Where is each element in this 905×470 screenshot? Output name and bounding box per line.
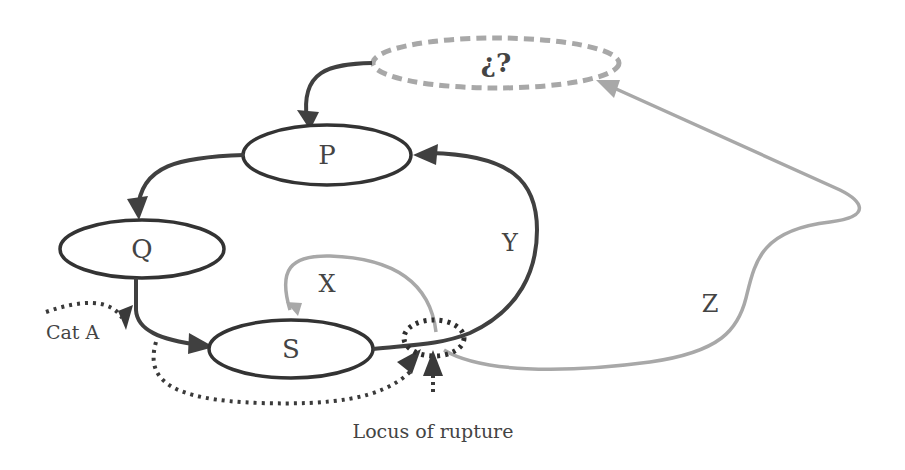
node-unknown: ¿? — [373, 38, 619, 88]
node-q: Q — [60, 220, 224, 278]
cat-a-label: Cat A — [46, 321, 100, 343]
arrowhead-icon — [397, 349, 421, 374]
q-node-label: Q — [131, 234, 152, 264]
edge-z: Z — [444, 80, 859, 369]
arrowhead-icon — [127, 196, 148, 220]
edge-y-label: Y — [501, 229, 519, 257]
diagram-canvas: ¿? P Q Cat A S — [0, 0, 905, 470]
edge-z-label: Z — [702, 290, 719, 318]
edge-p-to-q — [127, 155, 244, 220]
arrowhead-icon — [596, 80, 620, 98]
s-node-label: S — [282, 334, 300, 364]
edge-q-to-s — [136, 278, 214, 354]
arrowhead-icon — [413, 144, 438, 165]
edge-p-to-q-line — [138, 155, 244, 210]
edge-cat-a: Cat A — [46, 303, 133, 343]
arrowhead-icon — [423, 350, 443, 376]
edge-y: Y — [373, 144, 537, 349]
locus-of-rupture-marker: Locus of rupture — [353, 320, 514, 442]
p-node-label: P — [318, 140, 336, 170]
edge-unknown-to-p-line — [306, 63, 372, 120]
edge-unknown-to-p — [297, 63, 372, 130]
node-p: P — [243, 125, 411, 185]
cat-a-dotted-line — [46, 303, 122, 318]
edge-x-label: X — [318, 270, 335, 298]
locus-of-rupture-label: Locus of rupture — [353, 420, 514, 442]
node-s: S — [209, 320, 373, 378]
unknown-node-label: ¿? — [481, 48, 511, 78]
